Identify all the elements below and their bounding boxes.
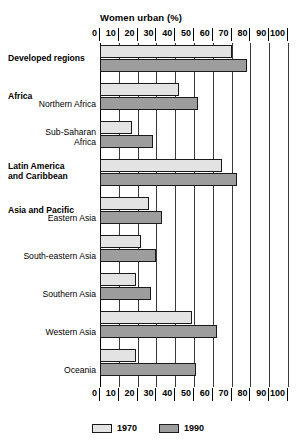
x-tick-20: 20 xyxy=(119,28,138,41)
x-tick-80: 80 xyxy=(231,28,250,41)
bar-1970 xyxy=(100,121,132,134)
bar-group xyxy=(100,45,288,72)
bar-group xyxy=(100,197,288,224)
bar-1990 xyxy=(100,287,151,300)
women-urban-bar-chart: Women urban (%) 0102030405060708090100 0… xyxy=(0,0,296,446)
x-tick-70: 70 xyxy=(213,388,232,401)
region-heading-label: Latin America and Caribbean xyxy=(0,161,96,181)
bar-1990 xyxy=(100,363,196,376)
bar-group xyxy=(100,311,288,338)
x-tick-30: 30 xyxy=(137,28,156,41)
bar-1970 xyxy=(100,235,141,248)
legend-label-1970: 1970 xyxy=(117,423,137,433)
legend-label-1990: 1990 xyxy=(184,423,204,433)
bar-group xyxy=(100,159,288,186)
bar-1990 xyxy=(100,59,247,72)
bar-1970 xyxy=(100,311,192,324)
x-tick-0: 0 xyxy=(81,28,100,41)
x-tick-10: 10 xyxy=(100,28,119,41)
bar-1990 xyxy=(100,249,156,262)
gridline-100 xyxy=(288,43,289,387)
x-tick-60: 60 xyxy=(194,388,213,401)
legend-swatch-1990 xyxy=(159,424,179,433)
chart-legend: 19701990 xyxy=(0,418,296,438)
x-tick-20: 20 xyxy=(119,388,138,401)
bar-group xyxy=(100,83,288,110)
category-label: Northern Africa xyxy=(0,99,96,109)
x-axis-ticks-bottom: 0102030405060708090100 xyxy=(0,388,296,401)
x-tick-90: 90 xyxy=(250,28,269,41)
category-label: Western Asia xyxy=(0,327,96,337)
bar-1990 xyxy=(100,173,237,186)
bar-1970 xyxy=(100,45,232,58)
x-tick-50: 50 xyxy=(175,28,194,41)
category-label: Eastern Asia xyxy=(0,213,96,223)
x-axis-ticks-top: 0102030405060708090100 xyxy=(0,28,296,41)
x-tick-40: 40 xyxy=(156,28,175,41)
bar-group xyxy=(100,121,288,148)
bar-1970 xyxy=(100,197,149,210)
x-tick-60: 60 xyxy=(194,28,213,41)
x-tick-100: 100 xyxy=(269,28,288,41)
bar-group xyxy=(100,273,288,300)
x-tick-100: 100 xyxy=(269,388,288,401)
bar-group xyxy=(100,235,288,262)
x-tick-10: 10 xyxy=(100,388,119,401)
bar-1970 xyxy=(100,349,136,362)
plot-area xyxy=(100,43,288,387)
bar-1990 xyxy=(100,211,162,224)
category-label: Oceania xyxy=(0,365,96,375)
chart-axis-title: Women urban (%) xyxy=(100,12,182,23)
x-tick-50: 50 xyxy=(175,388,194,401)
x-tick-80: 80 xyxy=(231,388,250,401)
bar-1990 xyxy=(100,97,198,110)
x-tick-40: 40 xyxy=(156,388,175,401)
bar-1970 xyxy=(100,159,222,172)
region-heading-label: Developed regions xyxy=(0,53,96,63)
x-tick-0: 0 xyxy=(81,388,100,401)
category-label: South-eastern Asia xyxy=(0,251,96,261)
category-label: Southern Asia xyxy=(0,289,96,299)
x-tick-30: 30 xyxy=(137,388,156,401)
legend-item-1970: 1970 xyxy=(92,423,137,433)
bar-1970 xyxy=(100,273,136,286)
bar-1990 xyxy=(100,135,153,148)
category-label: Sub-Saharan Africa xyxy=(0,127,96,147)
legend-item-1990: 1990 xyxy=(159,423,204,433)
bar-1990 xyxy=(100,325,217,338)
legend-swatch-1970 xyxy=(92,424,112,433)
x-tick-90: 90 xyxy=(250,388,269,401)
x-tick-70: 70 xyxy=(213,28,232,41)
bar-1970 xyxy=(100,83,179,96)
bar-group xyxy=(100,349,288,376)
